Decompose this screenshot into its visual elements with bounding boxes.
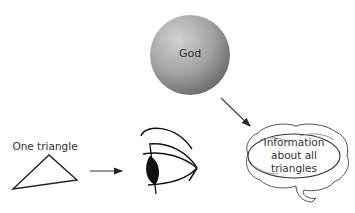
brain-label-line-2: about all (254, 149, 334, 162)
eye-icon (141, 128, 197, 194)
brain-label-line-1: Information (254, 136, 334, 149)
brain-label: Information about all triangles (254, 136, 334, 175)
arrow-god-to-brain (221, 98, 250, 126)
god-label: God (170, 47, 210, 60)
diagram-canvas (0, 0, 355, 213)
brain-label-line-3: triangles (254, 162, 334, 175)
triangle-label: One triangle (5, 140, 85, 153)
triangle-shape (13, 155, 77, 189)
